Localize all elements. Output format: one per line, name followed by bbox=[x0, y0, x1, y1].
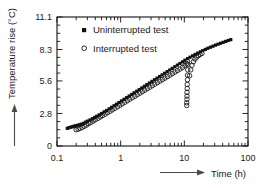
y-tick-label: 8.3 bbox=[39, 45, 52, 55]
x-tick-label: 100 bbox=[240, 153, 255, 163]
y-tick-label: 0 bbox=[47, 141, 52, 151]
legend-label-uninterrupted: Uninterrupted test bbox=[93, 24, 169, 35]
x-tick-label: 0.1 bbox=[51, 153, 64, 163]
x-tick-label: 1 bbox=[118, 153, 123, 163]
data-point bbox=[229, 38, 232, 41]
y-tick-label: 5.6 bbox=[39, 76, 52, 86]
legend-label-interrupted: Interrupted test bbox=[93, 43, 157, 54]
y-tick-label: 11.1 bbox=[35, 12, 52, 22]
x-axis-title: Time (h) bbox=[211, 168, 246, 179]
y-axis-title: Temperature rise (°C) bbox=[6, 8, 17, 99]
temperature-rise-chart: 0.1110100 02.85.68.311.1 Uninterrupted t… bbox=[0, 0, 272, 188]
x-tick-label: 10 bbox=[179, 153, 189, 163]
y-tick-label: 2.8 bbox=[39, 109, 52, 119]
legend-marker-filled-square bbox=[82, 28, 86, 32]
